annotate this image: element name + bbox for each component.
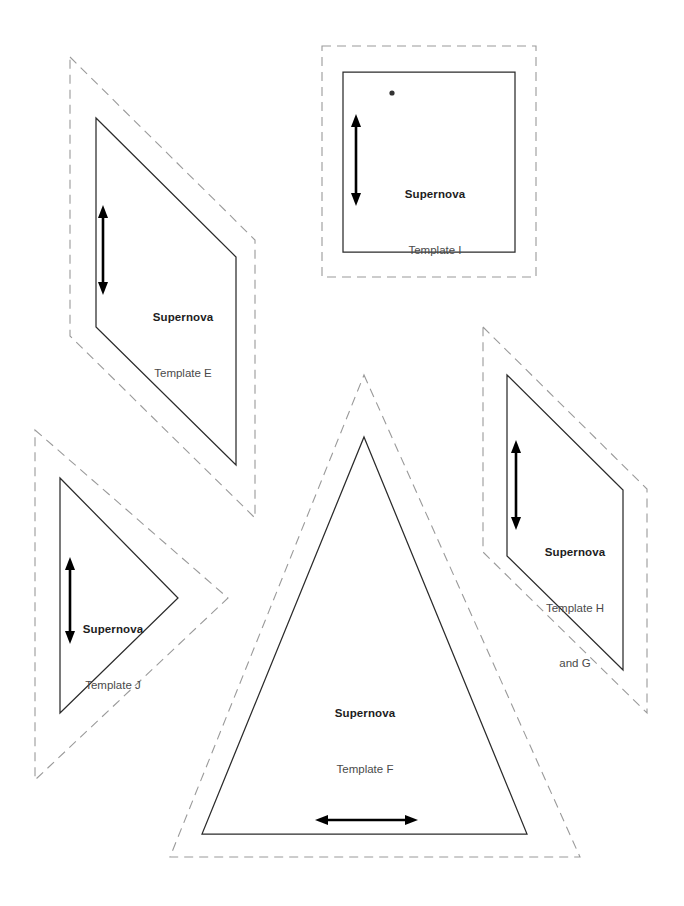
template-i-marker-dot-icon [389,90,394,95]
template-j-label: Supernova Template J [58,581,168,733]
template-j-brand: Supernova [58,622,168,637]
template-e-brand: Supernova [128,310,238,325]
template-f-label: Supernova Template F [310,665,420,817]
template-i-brand: Supernova [380,187,490,202]
template-e-label: Supernova Template E [128,269,238,421]
template-hg-label: Supernova Template H and G [523,504,627,712]
template-f-name: Template F [310,762,420,777]
template-sheet: Supernova Template E Supernova Template … [0,0,684,906]
template-hg-brand: Supernova [523,545,627,560]
template-hg-name: Template H [523,601,627,616]
template-hg-name-extra: and G [523,656,627,671]
template-i-label: Supernova Template I [380,146,490,298]
template-i-name: Template I [380,243,490,258]
template-j-name: Template J [58,678,168,693]
template-f-brand: Supernova [310,706,420,721]
template-e-name: Template E [128,366,238,381]
